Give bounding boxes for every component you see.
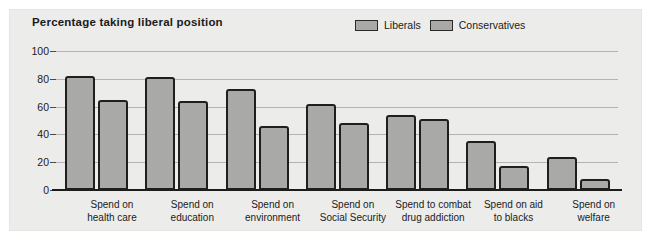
legend-label: Liberals [384,19,421,31]
chart-figure: Percentage taking liberal position Liber… [0,0,651,240]
x-axis-tick-label-line: Spend on [542,198,646,211]
gridline [56,134,618,135]
bar-conservatives [580,179,610,190]
y-axis-tick-label: 100 [31,45,49,57]
x-axis-line [52,189,622,191]
chart-title: Percentage taking liberal position [32,16,223,28]
bar-conservatives [98,100,128,190]
bar-liberals [466,141,496,190]
y-axis-tick-mark [50,51,56,52]
plot-area: 020406080100 Spend onhealth careSpend on… [56,51,618,190]
bar-liberals [386,115,416,190]
y-axis-tick-label: 0 [43,184,49,196]
bar-conservatives [259,126,289,190]
gridline [56,79,618,80]
bar-liberals [226,89,256,190]
y-axis-tick-mark [50,79,56,80]
bar-conservatives [419,119,449,190]
gridline [56,162,618,163]
bar-liberals [65,76,95,190]
legend-swatch-icon [430,20,453,31]
gridline [56,51,618,52]
y-axis-tick-label: 20 [37,156,49,168]
bar-liberals [145,77,175,190]
x-axis-tick-label-line: welfare [542,211,646,224]
bar-conservatives [339,123,369,190]
bar-liberals [306,104,336,190]
y-axis-tick-label: 40 [37,128,49,140]
y-axis-tick-mark [50,162,56,163]
y-axis-tick-label: 80 [37,73,49,85]
bar-conservatives [178,101,208,190]
y-axis-tick-mark [50,107,56,108]
legend-swatch-icon [355,20,378,31]
legend-item-liberals: Liberals [355,19,421,31]
bar-conservatives [499,166,529,190]
y-axis-tick-mark [50,134,56,135]
legend-label: Conservatives [459,19,526,31]
gridline [56,107,618,108]
chart-legend: Liberals Conservatives [355,19,525,31]
bar-liberals [547,157,577,190]
x-axis-tick-label: Spend onwelfare [542,198,646,224]
y-axis-tick-label: 60 [37,101,49,113]
legend-item-conservatives: Conservatives [430,19,526,31]
